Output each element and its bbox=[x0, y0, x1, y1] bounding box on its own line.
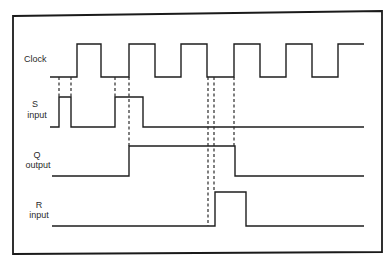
q-label-line2: output bbox=[25, 160, 51, 170]
r-label-line2: input bbox=[29, 210, 49, 220]
s-label-line1: S bbox=[32, 99, 38, 109]
s-label-line2: input bbox=[27, 110, 47, 120]
background bbox=[0, 0, 392, 270]
q-label-line1: Q bbox=[33, 150, 40, 160]
clock-label: Clock bbox=[24, 54, 47, 64]
r-label-line1: R bbox=[36, 200, 43, 210]
timing-diagram: Clock S input Q output R input bbox=[0, 0, 392, 270]
